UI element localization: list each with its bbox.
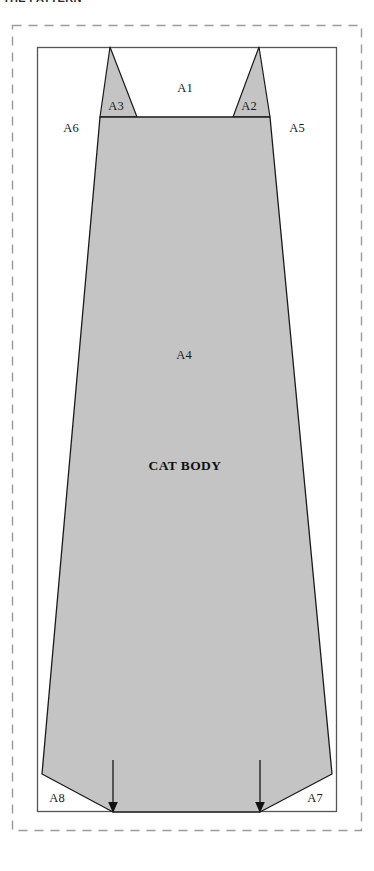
pattern-svg: A1 A3 A2 A6 A5 A4 CAT BODY A8 A7 [0, 0, 374, 871]
label-a6: A6 [63, 121, 78, 135]
label-a1: A1 [177, 81, 192, 95]
label-a5: A5 [289, 121, 304, 135]
label-a7: A7 [307, 791, 322, 805]
label-a8: A8 [49, 791, 64, 805]
label-a3: A3 [108, 99, 123, 113]
label-a4: A4 [176, 348, 192, 362]
label-a2: A2 [241, 99, 256, 113]
cat-body-title: CAT BODY [149, 458, 222, 473]
pattern-figure: A1 A3 A2 A6 A5 A4 CAT BODY A8 A7 [0, 0, 374, 871]
